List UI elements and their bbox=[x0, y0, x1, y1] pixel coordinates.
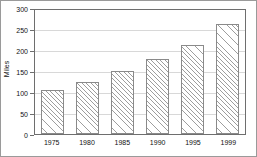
bar-chart-figure: Miles 050100150200250300 197519801985199… bbox=[0, 0, 257, 157]
plot-area bbox=[34, 9, 246, 135]
x-tick-label: 1990 bbox=[140, 136, 175, 156]
x-tick-label: 1999 bbox=[211, 136, 246, 156]
y-tick-label: 300 bbox=[16, 6, 28, 13]
y-tick-label: 50 bbox=[20, 111, 28, 118]
y-axis-tick-labels: 050100150200250300 bbox=[1, 1, 34, 157]
x-tick-label: 1975 bbox=[34, 136, 69, 156]
bar-slot bbox=[175, 10, 210, 134]
bar[interactable] bbox=[111, 71, 133, 134]
y-tick-label: 100 bbox=[16, 90, 28, 97]
x-tick-label: 1980 bbox=[69, 136, 104, 156]
bar-slot bbox=[35, 10, 70, 134]
bar-slot bbox=[140, 10, 175, 134]
bar[interactable] bbox=[216, 24, 238, 134]
bar-series bbox=[35, 10, 245, 134]
x-tick-label: 1985 bbox=[105, 136, 140, 156]
bar[interactable] bbox=[146, 59, 168, 134]
x-axis-tick-labels: 197519801985199019951999 bbox=[34, 136, 246, 156]
x-tick-label: 1995 bbox=[175, 136, 210, 156]
y-tick-label: 150 bbox=[16, 69, 28, 76]
bar[interactable] bbox=[181, 45, 203, 134]
y-tick-label: 200 bbox=[16, 48, 28, 55]
bar-slot bbox=[70, 10, 105, 134]
bar[interactable] bbox=[76, 82, 98, 135]
bar[interactable] bbox=[41, 90, 63, 134]
y-tick-label: 250 bbox=[16, 27, 28, 34]
bar-slot bbox=[105, 10, 140, 134]
bar-slot bbox=[210, 10, 245, 134]
y-tick-label: 0 bbox=[24, 132, 28, 139]
